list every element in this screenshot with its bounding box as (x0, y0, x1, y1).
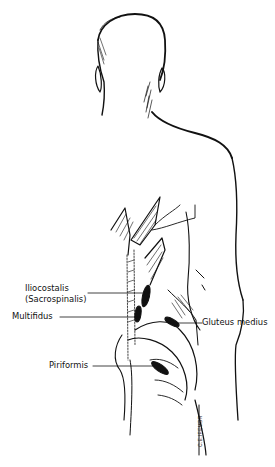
artist-signature: C.E.IFEMBR (197, 415, 203, 447)
label-gluteus-medius: Gluteus medius (202, 317, 268, 328)
anatomy-illustration (0, 0, 275, 467)
back-muscles (111, 197, 205, 360)
label-iliocostalis-line2: (Sacrospinalis) (25, 294, 86, 305)
head-outline (96, 14, 166, 115)
label-piriformis: Piriformis (49, 360, 88, 371)
label-iliocostalis-line1: Iliocostalis (25, 283, 86, 294)
label-multifidus: Multifidus (12, 311, 53, 322)
hip-region (115, 290, 206, 455)
label-iliocostalis: Iliocostalis (Sacrospinalis) (25, 283, 86, 305)
